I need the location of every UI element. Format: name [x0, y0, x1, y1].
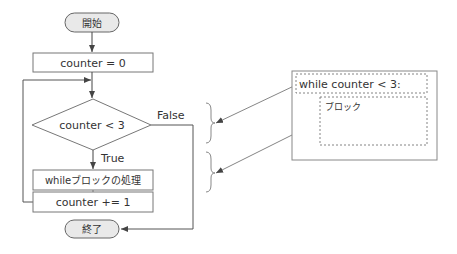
increment-label: counter += 1	[56, 196, 131, 209]
block-label: ブロック	[325, 101, 361, 112]
false-label: False	[157, 109, 185, 122]
pointer-header-to-condition	[216, 85, 296, 123]
body-label: whileブロックの処理	[45, 174, 141, 186]
while-header-label: while counter < 3:	[299, 78, 401, 91]
loop-body-box: whileブロックの処理	[33, 170, 153, 190]
while-loop-diagram: 開始 counter = 0 counter < 3 False True wh…	[0, 0, 457, 254]
increment-box: counter += 1	[33, 192, 153, 212]
condition-diamond: counter < 3	[32, 99, 151, 150]
condition-label: counter < 3	[59, 119, 125, 132]
init-label: counter = 0	[60, 57, 126, 70]
end-terminal: 終了	[65, 220, 119, 238]
code-panel: while counter < 3: ブロック	[292, 71, 437, 160]
start-terminal: 開始	[65, 13, 119, 32]
brace-condition-icon	[206, 103, 215, 143]
true-label: True	[100, 152, 125, 165]
start-label: 開始	[82, 17, 102, 29]
end-label: 終了	[82, 223, 102, 235]
init-box: counter = 0	[33, 53, 153, 72]
brace-body-icon	[206, 152, 215, 192]
